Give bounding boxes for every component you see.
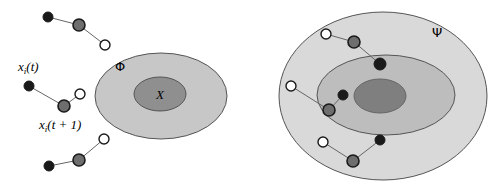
label-xi-t-plus-1: xi(t + 1) [38, 117, 81, 134]
label-xi-t: xi(t) [17, 59, 39, 76]
phi-region-label: Φ [115, 59, 125, 74]
marker-filled-gray [73, 154, 85, 166]
marker-open [99, 134, 109, 144]
label-xi-t1-arg: (t + 1) [47, 117, 81, 132]
marker-filled-black [44, 161, 54, 171]
diagram-svg: Φ X [0, 0, 500, 184]
marker-open [321, 29, 331, 39]
figure-canvas: Φ X [0, 0, 500, 184]
marker-filled-gray [73, 19, 85, 31]
marker-filled-gray [348, 36, 360, 48]
right-diagram: Ψ [279, 12, 487, 180]
chain-middle-left [24, 81, 85, 112]
psi-region-label: Ψ [432, 25, 442, 40]
marker-filled-gray [347, 155, 359, 167]
marker-filled-black [24, 81, 34, 91]
marker-open [100, 40, 110, 50]
marker-filled-gray [323, 104, 335, 116]
label-xi-t-arg: (t) [26, 59, 38, 74]
marker-filled-gray [58, 100, 70, 112]
marker-filled-black [375, 135, 385, 145]
marker-filled-black [338, 90, 348, 100]
chain-bottom-left [44, 134, 109, 171]
chain-top-left [43, 12, 110, 50]
x-region-label: X [155, 87, 165, 102]
marker-filled-black [374, 58, 386, 70]
psi-core-region-ellipse [354, 79, 406, 113]
marker-open [318, 137, 328, 147]
marker-open [75, 89, 85, 99]
marker-filled-black [43, 12, 53, 22]
left-diagram: Φ X [17, 12, 227, 171]
marker-open [286, 81, 296, 91]
